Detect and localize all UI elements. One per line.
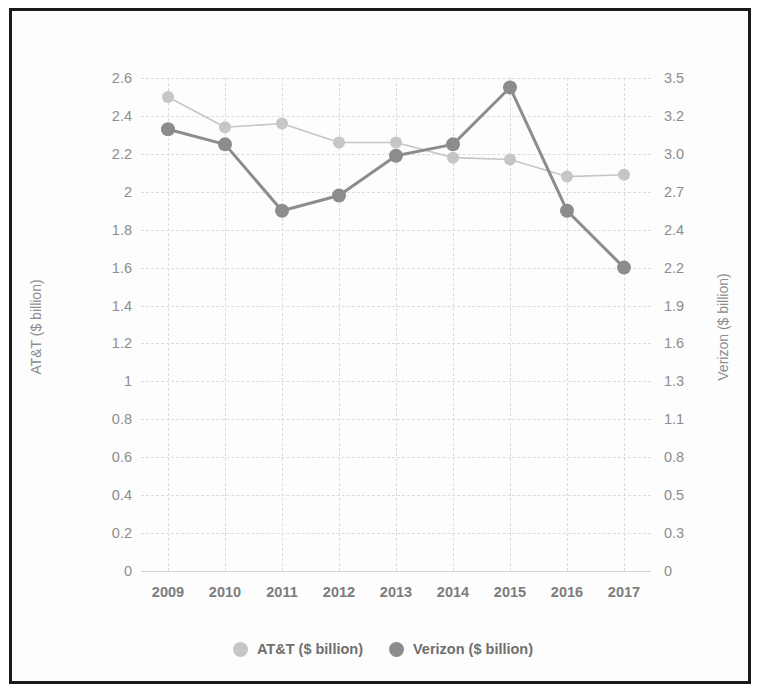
data-point-marker [617, 261, 631, 275]
right-axis-ticks: 3.53.23.02.72.42.21.91.61.31.10.80.50.30 [664, 78, 720, 571]
data-point-marker [332, 189, 346, 203]
x-axis-tick-label: 2011 [266, 585, 297, 600]
left-axis-tick-label: 1.6 [112, 261, 132, 276]
figure-frame: 2.62.42.221.81.61.41.210.80.60.40.20 3.5… [9, 8, 751, 684]
x-axis-ticks: 200920102011201220132014201520162017 [141, 585, 651, 607]
x-axis-tick-label: 2014 [437, 585, 469, 600]
data-point-marker [161, 122, 175, 136]
left-axis-tick-label: 0.8 [112, 412, 132, 427]
legend-marker-icon [389, 642, 404, 657]
left-axis-title: AT&T ($ billion) [28, 237, 44, 417]
left-axis-tick-label: 2.4 [112, 109, 132, 124]
axis-baseline [141, 571, 651, 572]
left-axis-tick-label: 1.2 [112, 336, 132, 351]
right-axis-tick-label: 2.2 [664, 261, 684, 276]
right-axis-tick-label: 0.8 [664, 450, 684, 465]
data-point-marker [503, 80, 517, 94]
right-axis-tick-label: 3.5 [664, 71, 684, 86]
chart-legend: AT&T ($ billion)Verizon ($ billion) [12, 641, 754, 657]
x-axis-tick-label: 2009 [152, 585, 184, 600]
left-axis-tick-label: 1 [124, 374, 132, 389]
right-axis-tick-label: 3.0 [664, 147, 684, 162]
data-point-marker [560, 204, 574, 218]
x-axis-tick-label: 2010 [209, 585, 241, 600]
data-point-marker [333, 136, 345, 148]
data-point-marker [218, 137, 232, 151]
right-axis-tick-label: 0 [664, 564, 672, 579]
series-layer [141, 78, 651, 571]
series-line [168, 87, 624, 267]
data-point-marker [561, 171, 573, 183]
data-point-marker [276, 118, 288, 130]
legend-marker-icon [233, 642, 248, 657]
legend-item-label: AT&T ($ billion) [257, 641, 363, 657]
x-axis-tick-label: 2017 [608, 585, 640, 600]
right-axis-tick-label: 1.9 [664, 299, 684, 314]
right-axis-tick-label: 1.1 [664, 412, 684, 427]
right-axis-title: Verizon ($ billion) [715, 237, 731, 417]
left-axis-tick-label: 1.8 [112, 223, 132, 238]
right-axis-tick-label: 3.2 [664, 109, 684, 124]
right-axis-tick-label: 2.7 [664, 185, 684, 200]
data-point-marker [618, 169, 630, 181]
data-point-marker [275, 204, 289, 218]
left-axis-tick-label: 2.6 [112, 71, 132, 86]
left-axis-tick-label: 0 [124, 564, 132, 579]
legend-item-label: Verizon ($ billion) [413, 641, 533, 657]
data-point-marker [219, 121, 231, 133]
left-axis-tick-label: 0.4 [112, 488, 132, 503]
left-axis-tick-label: 0.2 [112, 526, 132, 541]
data-point-marker [447, 152, 459, 164]
data-point-marker [446, 137, 460, 151]
left-axis-tick-label: 2 [124, 185, 132, 200]
left-axis-tick-label: 1.4 [112, 299, 132, 314]
data-point-marker [390, 136, 402, 148]
right-axis-tick-label: 1.3 [664, 374, 684, 389]
right-axis-tick-label: 0.3 [664, 526, 684, 541]
data-point-marker [389, 149, 403, 163]
left-axis-tick-label: 0.6 [112, 450, 132, 465]
x-axis-tick-label: 2015 [494, 585, 526, 600]
left-axis-ticks: 2.62.42.221.81.61.41.210.80.60.40.20 [70, 78, 132, 571]
data-point-marker [504, 154, 516, 166]
left-axis-tick-label: 2.2 [112, 147, 132, 162]
data-point-marker [162, 91, 174, 103]
right-axis-tick-label: 2.4 [664, 223, 684, 238]
right-axis-tick-label: 0.5 [664, 488, 684, 503]
x-axis-tick-label: 2013 [380, 585, 412, 600]
right-axis-tick-label: 1.6 [664, 336, 684, 351]
legend-item[interactable]: AT&T ($ billion) [233, 641, 363, 657]
legend-item[interactable]: Verizon ($ billion) [389, 641, 533, 657]
x-axis-tick-label: 2016 [551, 585, 583, 600]
figure-background: 2.62.42.221.81.61.41.210.80.60.40.20 3.5… [12, 11, 748, 681]
x-axis-tick-label: 2012 [323, 585, 355, 600]
